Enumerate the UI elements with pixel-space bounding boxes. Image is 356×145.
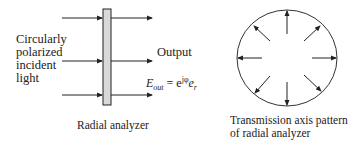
output-field-equation: Eout = ejφer bbox=[146, 75, 197, 92]
radial-analyzer-caption: Radial analyzer bbox=[77, 119, 149, 132]
caption-line: Transmission axis pattern bbox=[230, 114, 348, 127]
incident-label-line: light bbox=[16, 72, 67, 85]
incident-arrows bbox=[62, 18, 102, 95]
incident-light-label: Circularly polarized incident light bbox=[16, 33, 67, 85]
eq-lhs-sub: out bbox=[153, 83, 163, 92]
radial-analyzer-plate bbox=[103, 9, 111, 105]
radial-arrows bbox=[238, 11, 336, 105]
transmission-pattern-caption: Transmission axis pattern of radial anal… bbox=[230, 114, 348, 140]
eq-equals: = bbox=[167, 76, 174, 90]
eq-exponent: jφ bbox=[182, 75, 189, 84]
eq-vector-sub: r bbox=[194, 83, 197, 92]
caption-line: of radial analyzer bbox=[230, 127, 348, 140]
output-label: Output bbox=[157, 46, 192, 59]
